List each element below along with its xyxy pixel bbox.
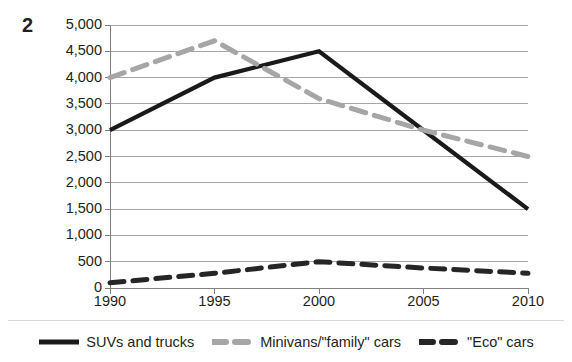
- y-axis-tick-label: 2,500: [28, 149, 102, 164]
- x-axis-tick-label: 2010: [512, 294, 544, 309]
- y-axis-tick-label: 0: [28, 280, 102, 295]
- y-axis-tick-label: 4,000: [28, 70, 102, 85]
- y-axis-tick-label: 3,000: [28, 122, 102, 137]
- legend-item-minivan[interactable]: Minivans/"family" cars: [212, 335, 401, 350]
- plot-area: [110, 25, 528, 288]
- x-axis-tick-label: 1990: [94, 294, 126, 309]
- y-axis-tick-label: 1,000: [28, 227, 102, 242]
- x-axis-tick-label: 2005: [407, 294, 439, 309]
- x-axis-tick-label: 1995: [198, 294, 230, 309]
- x-axis-tick-label: 2000: [303, 294, 335, 309]
- series-line-eco: [110, 262, 528, 283]
- y-axis-tick-label: 5,000: [28, 17, 102, 32]
- legend-swatch-eco: [419, 337, 461, 347]
- x-axis-tick-labels: 19901995200020052010: [110, 294, 528, 316]
- y-axis-tick-label: 2,000: [28, 175, 102, 190]
- legend-swatch-minivan: [212, 337, 254, 347]
- legend-label-eco: "Eco" cars: [467, 335, 534, 350]
- legend-item-suv[interactable]: SUVs and trucks: [38, 335, 194, 350]
- legend-item-eco[interactable]: "Eco" cars: [419, 335, 534, 350]
- y-axis-tick-label: 4,500: [28, 43, 102, 58]
- y-axis-tick-label: 1,500: [28, 201, 102, 216]
- plot-svg: [110, 25, 528, 288]
- legend-label-suv: SUVs and trucks: [86, 335, 194, 350]
- chart-container: 2 05001,0001,5002,0002,5003,0003,5004,00…: [0, 0, 572, 362]
- chart-legend: SUVs and trucksMinivans/"family" cars"Ec…: [0, 327, 572, 357]
- legend-divider: [8, 320, 564, 321]
- y-axis-tick-labels: 05001,0001,5002,0002,5003,0003,5004,0004…: [28, 25, 102, 288]
- y-axis-tick-label: 500: [28, 254, 102, 269]
- legend-label-minivan: Minivans/"family" cars: [260, 335, 401, 350]
- legend-swatch-suv: [38, 337, 80, 347]
- y-axis-tick-label: 3,500: [28, 96, 102, 111]
